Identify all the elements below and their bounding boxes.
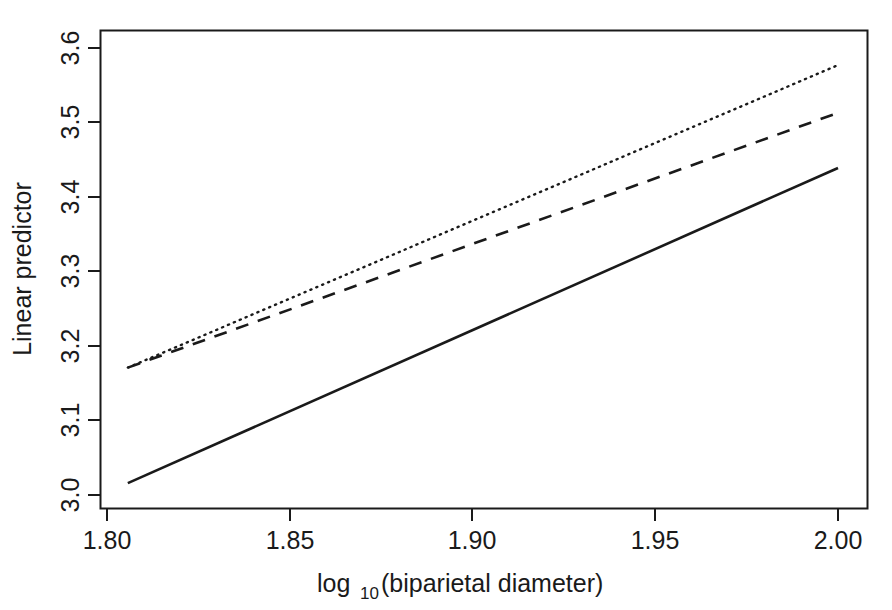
x-axis-title-subscript: 10: [360, 584, 379, 603]
x-axis-ticks: [107, 509, 838, 521]
data-series-group: [128, 65, 838, 483]
x-tick-label-1-95: 1.95: [631, 526, 680, 554]
x-axis-title: log 10 (biparietal diameter): [317, 569, 603, 603]
x-axis-title-rest: (biparietal diameter): [381, 569, 603, 597]
series-line-solid: [128, 168, 838, 483]
x-tick-label-2-00: 2.00: [814, 526, 863, 554]
y-axis-title: Linear predictor: [8, 182, 36, 356]
y-axis-ticks: [88, 48, 100, 495]
chart-plot-area: 3.6 3.5 3.4 3.3 3.2 3.1 3.0 1.80 1.85 1.…: [0, 0, 892, 610]
x-axis-tick-labels: 1.80 1.85 1.90 1.95 2.00: [83, 526, 863, 554]
chart-figure: 3.6 3.5 3.4 3.3 3.2 3.1 3.0 1.80 1.85 1.…: [0, 0, 892, 610]
y-tick-label-3-3: 3.3: [56, 254, 84, 289]
y-tick-label-3-6: 3.6: [56, 31, 84, 66]
x-tick-label-1-80: 1.80: [83, 526, 132, 554]
y-tick-label-3-0: 3.0: [56, 478, 84, 513]
y-axis-tick-labels: 3.6 3.5 3.4 3.3 3.2 3.1 3.0: [56, 31, 84, 513]
y-tick-label-3-5: 3.5: [56, 105, 84, 140]
x-tick-label-1-90: 1.90: [448, 526, 497, 554]
y-tick-label-3-4: 3.4: [56, 180, 84, 215]
y-tick-label-3-2: 3.2: [56, 329, 84, 364]
x-tick-label-1-85: 1.85: [266, 526, 315, 554]
y-tick-label-3-1: 3.1: [56, 403, 84, 438]
x-axis-title-main: log: [317, 569, 350, 597]
series-line-dashed: [128, 113, 838, 368]
